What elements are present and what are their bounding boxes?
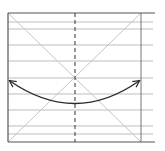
horizontal-grid-lines [8, 22, 153, 134]
folding-diagram [0, 0, 165, 151]
